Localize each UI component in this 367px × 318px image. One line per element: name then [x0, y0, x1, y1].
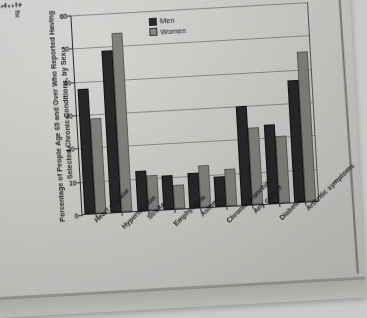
y-axis-tick-label: 40: [63, 79, 71, 86]
x-axis-tick-mark: [174, 209, 175, 213]
y-axis-tick-label: 60: [59, 12, 67, 19]
legend-item-women: Women: [149, 26, 186, 37]
legend: Men Women: [149, 15, 187, 38]
x-axis-tick-mark: [226, 206, 227, 210]
bar-chart: Percentage of People Age 65 and Over Who…: [30, 0, 345, 289]
y-axis-tick-label: 30: [65, 112, 73, 119]
y-axis-tick-label: 50: [61, 45, 69, 52]
page-edge-text-fragment: hed: [13, 10, 23, 25]
legend-swatch-women-icon: [149, 28, 157, 36]
y-axis-tick-mark: [79, 215, 83, 216]
bar-women: [224, 168, 237, 206]
legend-swatch-men-icon: [149, 17, 157, 25]
x-axis-labels: Heart diseaseHypertensionStrokeEmphysema…: [82, 206, 324, 289]
y-axis-tick-label: 10: [69, 179, 77, 186]
x-axis-tick-mark: [122, 212, 123, 216]
bar-groups: [71, 2, 318, 214]
legend-label-women: Women: [160, 26, 186, 36]
bar-women: [173, 185, 185, 209]
legend-item-men: Men: [149, 15, 186, 26]
x-axis-tick-mark: [279, 203, 280, 207]
legend-label-men: Men: [160, 16, 175, 26]
photographed-page: adult... hed Percentage of People Age 65…: [0, 0, 367, 318]
plot-area: 0102030405060: [70, 2, 319, 215]
y-axis-tick-label: 20: [67, 145, 75, 152]
